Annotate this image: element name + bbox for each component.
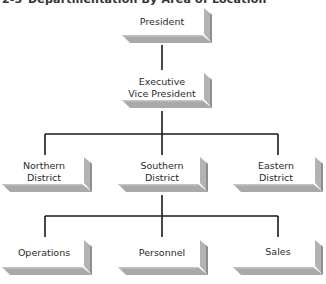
node-northern-label-1: Northern — [0, 160, 88, 172]
node-northern-district: Northern District — [0, 160, 88, 183]
node-evp-label-1: Executive — [118, 76, 206, 88]
node-operations: Operations — [0, 247, 88, 259]
node-personnel: Personnel — [118, 247, 206, 259]
connector-lines — [45, 45, 278, 237]
node-personnel-label: Personnel — [118, 247, 206, 259]
node-southern-label-2: District — [118, 172, 206, 184]
node-operations-label: Operations — [0, 247, 88, 259]
node-southern-label-1: Southern — [118, 160, 206, 172]
org-chart — [0, 0, 326, 284]
node-evp-label-2: Vice President — [118, 88, 206, 100]
node-southern-district: Southern District — [118, 160, 206, 183]
node-eastern-district: Eastern District — [232, 160, 320, 183]
node-northern-label-2: District — [0, 172, 88, 184]
node-executive-vice-president: Executive Vice President — [118, 76, 206, 99]
node-president: President — [118, 16, 206, 28]
node-sales: Sales — [234, 246, 322, 258]
node-eastern-label-2: District — [232, 172, 320, 184]
node-eastern-label-1: Eastern — [232, 160, 320, 172]
node-president-label: President — [118, 16, 206, 28]
node-sales-label: Sales — [234, 246, 322, 258]
